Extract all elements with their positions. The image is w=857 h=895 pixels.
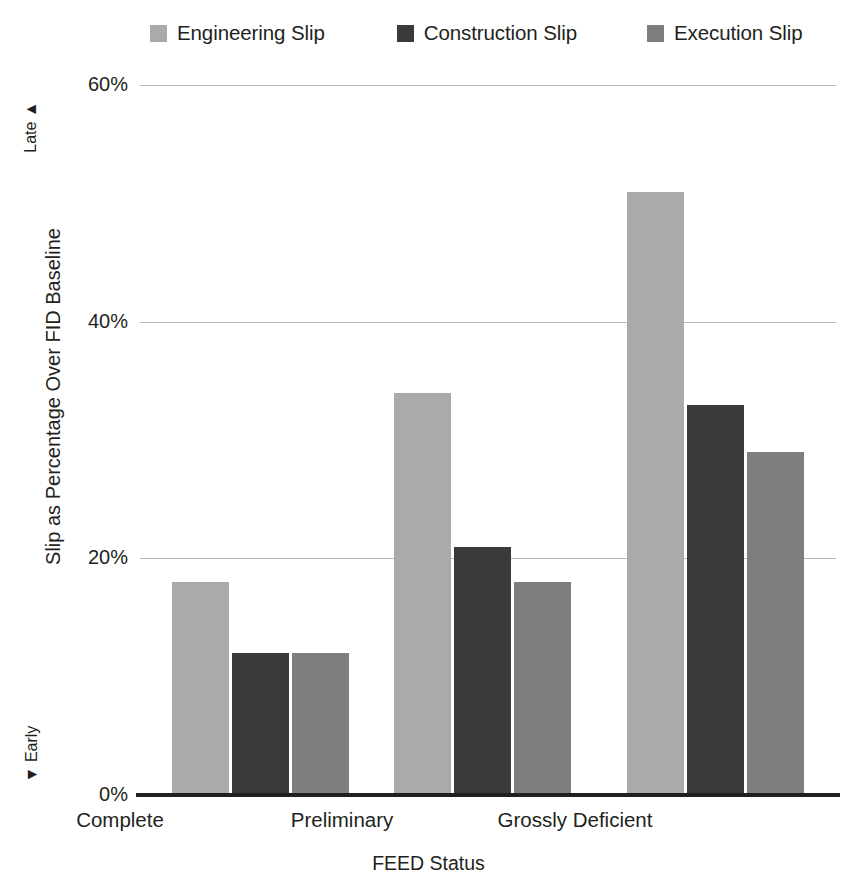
legend-item-execution-slip[interactable]: Execution Slip bbox=[647, 21, 803, 45]
bar-group-preliminary bbox=[394, 85, 571, 795]
axis-direction-late: Late ▲ bbox=[22, 87, 40, 167]
y-axis-tick-label: 20% bbox=[58, 547, 128, 567]
bar-engineering-slip[interactable] bbox=[172, 582, 229, 795]
x-axis-tick-label: Grossly Deficient bbox=[435, 808, 715, 832]
bar-execution-slip[interactable] bbox=[514, 582, 571, 795]
y-axis-title: Slip as Percentage Over FID Baseline bbox=[42, 187, 65, 607]
legend-label-construction-slip: Construction Slip bbox=[424, 21, 577, 45]
bar-construction-slip[interactable] bbox=[232, 653, 289, 795]
x-axis-line bbox=[136, 793, 840, 797]
legend-swatch-construction-slip bbox=[397, 25, 414, 42]
y-axis-tick-label: 40% bbox=[58, 311, 128, 331]
x-axis-title: FEED Status bbox=[0, 852, 857, 875]
legend-swatch-execution-slip bbox=[647, 25, 664, 42]
bar-engineering-slip[interactable] bbox=[627, 192, 684, 796]
bar-execution-slip[interactable] bbox=[747, 452, 804, 795]
legend-item-engineering-slip[interactable]: Engineering Slip bbox=[150, 21, 325, 45]
bar-execution-slip[interactable] bbox=[292, 653, 349, 795]
bar-construction-slip[interactable] bbox=[687, 405, 744, 796]
chart-legend: Engineering Slip Construction Slip Execu… bbox=[150, 18, 840, 48]
bar-group-complete bbox=[172, 85, 349, 795]
legend-swatch-engineering-slip bbox=[150, 25, 167, 42]
plot-area: 0%20%40%60% bbox=[140, 85, 836, 795]
bar-chart: Engineering Slip Construction Slip Execu… bbox=[0, 0, 857, 895]
legend-item-construction-slip[interactable]: Construction Slip bbox=[397, 21, 577, 45]
legend-label-execution-slip: Execution Slip bbox=[674, 21, 803, 45]
y-axis-tick-label: 0% bbox=[58, 784, 128, 804]
bar-engineering-slip[interactable] bbox=[394, 393, 451, 795]
axis-direction-early: ▼ Early bbox=[23, 711, 41, 797]
bar-group-grossly-deficient bbox=[627, 85, 804, 795]
y-axis-tick-label: 60% bbox=[58, 74, 128, 94]
legend-label-engineering-slip: Engineering Slip bbox=[177, 21, 325, 45]
bar-construction-slip[interactable] bbox=[454, 547, 511, 796]
